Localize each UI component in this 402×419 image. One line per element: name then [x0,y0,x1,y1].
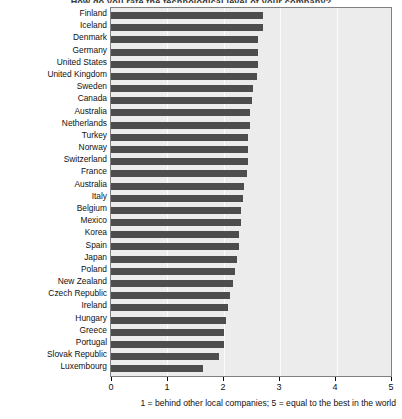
table-row [111,168,391,180]
category-label: Denmark [0,33,107,42]
bar [111,329,224,336]
table-row [111,204,391,216]
category-label: Iceland [0,21,107,30]
bar [111,158,248,165]
table-row [111,34,391,46]
x-tick-label: 1 [152,382,182,392]
bar [111,73,257,80]
x-tick [279,377,280,381]
category-label: Belgium [0,204,107,213]
category-label: Germany [0,46,107,55]
bar [111,146,248,153]
category-label: Turkey [0,131,107,140]
bar [111,109,250,116]
table-row [111,83,391,95]
x-tick-label: 4 [320,382,350,392]
category-label: Netherlands [0,119,107,128]
table-row [111,351,391,363]
bar [111,97,252,104]
table-row [111,241,391,253]
category-label: Korea [0,228,107,237]
bar [111,134,248,141]
bar [111,36,258,43]
category-label: Australia [0,180,107,189]
x-tick [223,377,224,381]
category-label: Spain [0,241,107,250]
category-label: Greece [0,326,107,335]
bar [111,280,233,287]
table-row [111,143,391,155]
bar [111,231,239,238]
bar [111,49,258,56]
bar [111,219,241,226]
bar [111,304,228,311]
category-label: Portugal [0,338,107,347]
bar [111,195,243,202]
table-row [111,253,391,265]
category-label: Luxembourg [0,362,107,371]
bar [111,85,253,92]
bar [111,353,219,360]
category-label: Ireland [0,301,107,310]
x-tick [391,377,392,381]
bar [111,268,235,275]
bar [111,207,241,214]
category-label: Finland [0,9,107,18]
table-row [111,192,391,204]
chart-title-text: How do you rate the technological level … [71,0,332,3]
table-row [111,131,391,143]
table-row [111,338,391,350]
plot-area [110,7,392,377]
table-row [111,70,391,82]
table-row [111,119,391,131]
x-tick-label: 0 [96,382,126,392]
bar [111,365,203,372]
table-row [111,10,391,22]
table-row [111,107,391,119]
category-label: Sweden [0,82,107,91]
category-label: Australia [0,107,107,116]
bar [111,183,244,190]
category-label: Canada [0,94,107,103]
category-label: Italy [0,192,107,201]
bar [111,256,237,263]
category-label: Japan [0,253,107,262]
table-row [111,277,391,289]
table-row [111,363,391,375]
category-label: Switzerland [0,155,107,164]
bar [111,12,263,19]
bar [111,243,239,250]
category-label: Czech Republic [0,289,107,298]
table-row [111,180,391,192]
x-tick [335,377,336,381]
category-label: Hungary [0,314,107,323]
x-tick [111,377,112,381]
table-row [111,229,391,241]
x-tick-label: 3 [264,382,294,392]
table-row [111,156,391,168]
category-label: New Zealand [0,277,107,286]
category-label: United States [0,58,107,67]
technology-level-bar-chart: How do you rate the technological level … [0,0,402,419]
category-label: Slovak Republic [0,350,107,359]
bar [111,292,230,299]
bar [111,122,250,129]
category-label: France [0,167,107,176]
category-label: United Kingdom [0,70,107,79]
table-row [111,326,391,338]
x-tick-label: 5 [376,382,402,392]
x-tick-label: 2 [208,382,238,392]
table-row [111,95,391,107]
bar [111,170,247,177]
table-row [111,302,391,314]
x-tick [167,377,168,381]
bar [111,61,258,68]
table-row [111,314,391,326]
category-label: Mexico [0,216,107,225]
bar-rows [111,8,391,376]
category-label: Norway [0,143,107,152]
table-row [111,217,391,229]
table-row [111,46,391,58]
bar [111,341,224,348]
chart-title-clipped: How do you rate the technological level … [0,0,402,3]
